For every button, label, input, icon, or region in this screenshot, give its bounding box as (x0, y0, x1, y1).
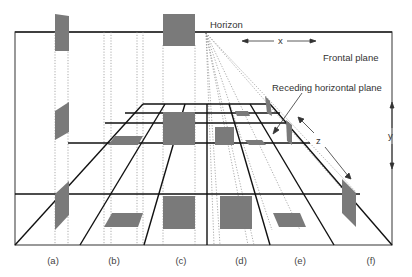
caption-f: (f) (367, 256, 376, 266)
perspective-diagram (0, 0, 412, 277)
shape-c-mid (163, 112, 195, 145)
x-axis-label: x (278, 36, 283, 46)
shape-e-near (273, 213, 306, 227)
shape-d-far (215, 127, 234, 145)
shape-c-top (163, 14, 195, 46)
shape-a-top (55, 14, 69, 51)
shape-b-near (104, 213, 143, 227)
shape-a-low (55, 181, 69, 230)
shape-d-near (220, 196, 252, 229)
shape-e-far (235, 111, 250, 116)
y-axis-label: y (388, 131, 393, 141)
frontal-plane-label: Frontal plane (323, 53, 378, 63)
shape-f-near (342, 179, 356, 227)
receding-grid (15, 104, 392, 245)
caption-e: (e) (294, 256, 306, 266)
caption-b: (b) (108, 256, 120, 266)
caption-a: (a) (47, 256, 59, 266)
receding-plane-label: Receding horizontal plane (272, 83, 382, 93)
shape-a-mid (55, 102, 69, 140)
horizon-label: Horizon (210, 20, 243, 30)
shape-f-mid (286, 120, 292, 145)
shape-c-low (163, 196, 195, 229)
caption-d: (d) (235, 256, 247, 266)
frontal-plane-frame (15, 32, 392, 245)
shape-e-mid (245, 140, 266, 145)
caption-c: (c) (175, 256, 186, 266)
shapes (55, 14, 356, 230)
z-axis-label: z (316, 136, 321, 146)
